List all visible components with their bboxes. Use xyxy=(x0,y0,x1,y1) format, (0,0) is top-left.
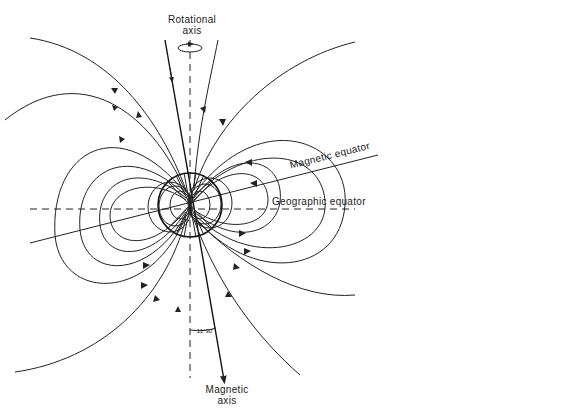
rotational-axis-label-line2: axis xyxy=(165,25,219,36)
magnetic-axis-label: Magnetic axis xyxy=(200,384,254,406)
rotational-axis-label: Rotational axis xyxy=(165,14,219,36)
magnetic-axis-label-line2: axis xyxy=(200,395,254,406)
rotational-axis-label-line1: Rotational xyxy=(165,14,219,25)
right-field-lines xyxy=(194,40,355,375)
tilt-angle-label: 11°30' xyxy=(193,326,217,337)
geographic-equator-label: Geographic equator xyxy=(272,196,382,207)
right-arrow-icons xyxy=(200,106,257,297)
magnetic-axis-label-line1: Magnetic xyxy=(200,384,254,395)
